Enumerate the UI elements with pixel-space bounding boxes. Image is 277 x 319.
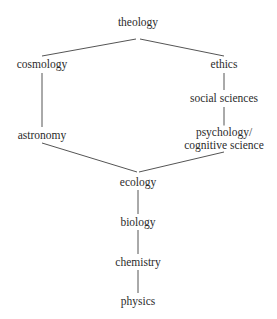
node-chemistry[interactable]: chemistry (113, 256, 162, 269)
node-psychology[interactable]: psychology/cognitive science (182, 126, 266, 151)
hierarchy-diagram: theologycosmologyethicssocial sciencesas… (0, 0, 277, 319)
node-biology[interactable]: biology (118, 216, 157, 229)
edge-theology-ethics (140, 39, 224, 56)
node-label-line: biology (120, 216, 155, 229)
node-label-line: psychology/ (184, 126, 264, 139)
node-theology[interactable]: theology (116, 16, 160, 29)
node-label-line: cognitive science (184, 138, 264, 151)
node-label-line: ecology (120, 176, 156, 189)
node-label-line: chemistry (115, 256, 160, 269)
node-ethics[interactable]: ethics (209, 58, 240, 71)
node-social-sciences[interactable]: social sciences (188, 92, 260, 105)
edge-layer (0, 0, 277, 319)
edge-psychology-ecology (139, 152, 224, 172)
node-cosmology[interactable]: cosmology (15, 58, 69, 71)
edge-astronomy-ecology (42, 143, 137, 172)
node-label-line: astronomy (18, 129, 67, 142)
node-label-line: cosmology (17, 58, 67, 71)
edge-theology-cosmology (42, 39, 136, 56)
node-label-line: physics (121, 295, 156, 308)
node-label-line: social sciences (190, 92, 258, 105)
node-physics[interactable]: physics (119, 295, 158, 308)
node-label-line: ethics (211, 58, 238, 71)
node-astronomy[interactable]: astronomy (16, 129, 69, 142)
node-ecology[interactable]: ecology (118, 176, 158, 189)
node-label-line: theology (118, 16, 158, 29)
